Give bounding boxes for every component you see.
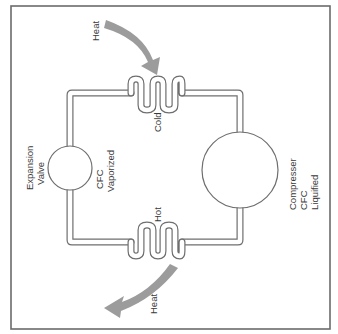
hot-coil <box>131 225 182 256</box>
expansion-valve-label-line2: Valve <box>35 162 46 185</box>
expansion-valve-circle <box>48 146 92 190</box>
heat-in-arrow-icon <box>104 20 160 75</box>
cfc-vaporized-label-line1: CFC <box>94 169 105 189</box>
heat-out-label: Heat <box>148 294 159 314</box>
hot-label: Hot <box>152 207 163 222</box>
cfc-vaporized-label-line2: Vaporized <box>105 150 116 192</box>
refrigeration-cycle-diagram: Heat Cold Hot Heat Expansion Valve CFC V… <box>0 0 338 334</box>
compressor-label-line1: Compresser <box>287 158 298 210</box>
cold-label: Cold <box>152 112 163 132</box>
compressor-label-line2: CFC <box>298 190 309 210</box>
compressor-label-line3: Liquified <box>309 175 320 210</box>
cold-coil <box>131 79 182 110</box>
expansion-valve-label-line1: Expansion <box>24 146 35 190</box>
compressor-circle <box>202 132 278 208</box>
heat-out-arrow-icon <box>104 264 178 318</box>
heat-in-label: Heat <box>90 21 101 41</box>
